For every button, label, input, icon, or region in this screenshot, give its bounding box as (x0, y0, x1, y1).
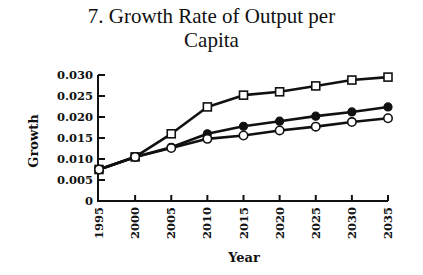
open-circle-marker (131, 153, 139, 161)
x-axis-title: Year (227, 250, 260, 265)
y-tick-label: 0.025 (57, 89, 93, 103)
open-circle-marker (275, 126, 283, 134)
y-tick-label: 0.010 (57, 152, 93, 166)
open-circle-marker (384, 114, 392, 122)
filled-circle-marker (348, 108, 356, 116)
square-marker (348, 76, 356, 84)
square-marker (203, 103, 211, 111)
y-tick-label: 0.020 (57, 110, 93, 124)
x-tick-label: 2020 (273, 207, 287, 239)
y-tick-label: 0.030 (57, 68, 93, 82)
data-series (95, 73, 392, 174)
y-tick-label: 0 (85, 194, 93, 208)
x-tick-label: 2000 (128, 207, 142, 239)
open-circle-marker (348, 118, 356, 126)
square-marker (384, 73, 392, 81)
open-circle-marker (95, 165, 103, 173)
filled-circle-marker (276, 117, 284, 125)
open-circle-marker (312, 122, 320, 130)
y-tick-label: 0.015 (57, 131, 93, 145)
filled-circle-marker (240, 122, 248, 130)
y-tick-label: 0.005 (57, 173, 93, 187)
square-marker (167, 130, 175, 138)
x-tick-label: 1995 (92, 207, 106, 239)
square-marker (312, 82, 320, 90)
x-tick-label: 2010 (200, 207, 214, 239)
square-marker (276, 88, 284, 96)
square-marker (240, 91, 248, 99)
open-circle-marker (203, 135, 211, 143)
x-tick-label: 2015 (237, 207, 251, 239)
filled-circle-marker (312, 112, 320, 120)
open-circle-marker (167, 144, 175, 152)
open-circle-marker (239, 131, 247, 139)
x-tick-label: 2005 (164, 207, 178, 239)
filled-circle-marker (384, 103, 392, 111)
x-tick-label: 2030 (345, 207, 359, 239)
y-axis-title: Growth (26, 114, 41, 168)
x-tick-label: 2035 (381, 207, 395, 239)
line-chart: 00.0050.0100.0150.0200.0250.030 19952000… (0, 0, 423, 275)
x-tick-label: 2025 (309, 207, 323, 239)
